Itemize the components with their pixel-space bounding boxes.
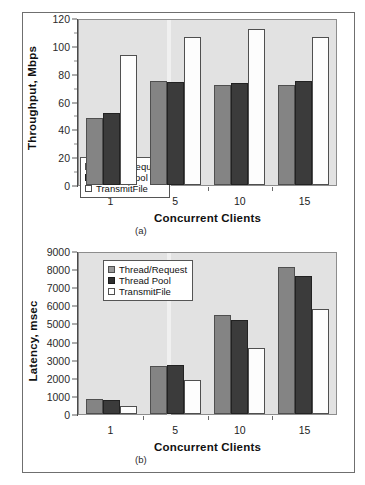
x-tick-mark xyxy=(208,187,209,191)
chart-b-x-axis-label: Concurrent Clients xyxy=(78,441,337,453)
bar xyxy=(86,399,103,414)
bar xyxy=(167,365,184,414)
bar-group xyxy=(79,20,143,185)
bar xyxy=(86,118,103,185)
chart-a-x-axis-label: Concurrent Clients xyxy=(78,212,337,224)
bar xyxy=(214,85,231,185)
x-category-label: 10 xyxy=(208,424,273,436)
chart-a-caption: (a) xyxy=(135,225,147,236)
bar xyxy=(214,315,231,414)
legend-entry-transmitfile: TransmitFile xyxy=(108,286,187,297)
bar-group xyxy=(208,253,272,414)
y-tick-label: 7000 xyxy=(47,282,70,294)
y-tick-label: 0 xyxy=(64,409,70,421)
x-category-label: 15 xyxy=(272,195,337,207)
figure-page: Throughput, Mbps 020406080100120 151015 … xyxy=(0,0,365,485)
bar xyxy=(248,29,265,185)
bar xyxy=(103,113,120,185)
chart-throughput: Throughput, Mbps 020406080100120 151015 … xyxy=(23,13,356,245)
x-category-label: 15 xyxy=(272,424,337,436)
bar xyxy=(295,276,312,414)
bar xyxy=(120,406,137,414)
bar xyxy=(184,380,201,414)
y-tick-label: 1000 xyxy=(47,391,70,403)
bar xyxy=(120,55,137,185)
chart-b-legend: Thread/Request Thread Pool TransmitFile xyxy=(103,260,193,301)
legend-swatch-icon xyxy=(108,266,115,273)
bar-group xyxy=(272,253,336,414)
y-tick-label: 5000 xyxy=(47,318,70,330)
legend-entry-thread-pool: Thread Pool xyxy=(108,275,187,286)
y-tick-label: 40 xyxy=(58,124,70,136)
legend-swatch-icon xyxy=(108,288,115,295)
bar xyxy=(278,267,295,414)
legend-swatch-icon xyxy=(85,185,92,192)
figure-frame: Throughput, Mbps 020406080100120 151015 … xyxy=(22,12,355,473)
bar xyxy=(184,37,201,185)
bar xyxy=(312,37,329,185)
chart-a-y-axis-label: Throughput, Mbps xyxy=(23,13,41,183)
x-tick-mark xyxy=(272,187,273,191)
bar xyxy=(150,81,167,185)
bar xyxy=(231,83,248,185)
x-tick-mark xyxy=(143,416,144,420)
bar-group xyxy=(272,20,336,185)
chart-b-x-categories: 151015 xyxy=(78,424,337,436)
bar xyxy=(231,320,248,414)
y-tick-label: 2000 xyxy=(47,373,70,385)
chart-a-plot xyxy=(78,19,337,186)
bar xyxy=(295,81,312,185)
y-tick-label: 100 xyxy=(52,41,70,53)
y-tick-label: 80 xyxy=(58,69,70,81)
bar-group xyxy=(143,20,207,185)
x-category-label: 5 xyxy=(143,424,208,436)
y-tick-label: 0 xyxy=(64,180,70,192)
y-tick-label: 4000 xyxy=(47,337,70,349)
x-tick-mark xyxy=(208,416,209,420)
chart-a-bar-groups xyxy=(79,20,336,185)
x-tick-mark xyxy=(272,416,273,420)
y-tick-label: 9000 xyxy=(47,246,70,258)
y-tick-label: 3000 xyxy=(47,355,70,367)
y-tick-label: 120 xyxy=(52,13,70,25)
y-tick-label: 6000 xyxy=(47,300,70,312)
bar xyxy=(150,366,167,414)
bar-group xyxy=(208,20,272,185)
bar xyxy=(248,348,265,414)
chart-latency: Latency, msec 01000200030004000500060007… xyxy=(23,246,356,474)
bar xyxy=(278,85,295,185)
chart-b-caption: (b) xyxy=(135,454,147,465)
x-category-label: 1 xyxy=(78,424,143,436)
bar xyxy=(312,309,329,414)
x-category-label: 10 xyxy=(208,195,273,207)
y-tick-label: 60 xyxy=(58,97,70,109)
y-tick-label: 20 xyxy=(58,152,70,164)
bar xyxy=(103,400,120,414)
legend-swatch-icon xyxy=(108,277,115,284)
bar xyxy=(167,82,184,185)
chart-b-y-axis-label: Latency, msec xyxy=(23,256,41,426)
legend-entry-thread-request: Thread/Request xyxy=(108,264,187,275)
y-tick-label: 8000 xyxy=(47,264,70,276)
